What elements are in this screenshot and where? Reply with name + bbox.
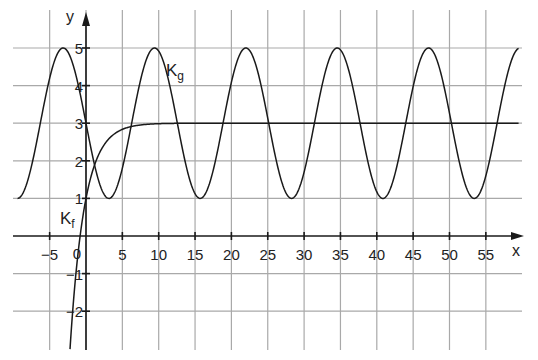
curve-label-kf: Kf bbox=[60, 209, 75, 231]
y-tick-label: 5 bbox=[75, 40, 83, 57]
y-tick-label: 2 bbox=[75, 153, 83, 170]
curve-label-kg-main: K bbox=[166, 61, 178, 80]
curve-label-kf-sub: f bbox=[71, 217, 75, 231]
x-axis-arrow-icon bbox=[511, 232, 524, 240]
x-tick-label: 10 bbox=[150, 246, 167, 263]
y-tick-label: 3 bbox=[75, 115, 83, 132]
x-tick-label: 40 bbox=[368, 246, 385, 263]
x-tick-label: 20 bbox=[223, 246, 240, 263]
y-tick-label: −1 bbox=[66, 266, 83, 283]
curve-label-kg-sub: g bbox=[177, 69, 184, 83]
x-tick-label: 35 bbox=[332, 246, 349, 263]
curve-label-kf-main: K bbox=[60, 209, 72, 228]
x-tick-label: 50 bbox=[441, 246, 458, 263]
x-tick-label: 30 bbox=[296, 246, 313, 263]
y-axis-label: y bbox=[66, 8, 74, 25]
x-tick-label: 55 bbox=[478, 246, 495, 263]
y-tick-label: −2 bbox=[66, 303, 83, 320]
x-tick-label: 15 bbox=[187, 246, 204, 263]
x-tick-label: 5 bbox=[118, 246, 126, 263]
x-tick-label: 25 bbox=[259, 246, 276, 263]
x-tick-label: 45 bbox=[405, 246, 422, 263]
y-axis-arrow-icon bbox=[82, 12, 90, 26]
curve-label-kg: Kg bbox=[166, 61, 184, 83]
y-tick-label: 1 bbox=[75, 190, 83, 207]
x-axis-label: x bbox=[512, 242, 520, 259]
x-tick-label: −5 bbox=[41, 246, 58, 263]
function-plot: −5510152025303540455055−2−1123450 x y Kg… bbox=[0, 0, 538, 360]
